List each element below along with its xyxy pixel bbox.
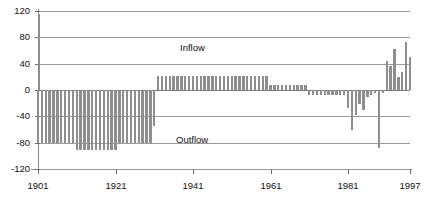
bar bbox=[52, 90, 54, 143]
bar bbox=[382, 90, 384, 93]
bar bbox=[76, 90, 78, 150]
bar bbox=[366, 90, 368, 97]
bar bbox=[227, 76, 229, 90]
bar bbox=[153, 90, 155, 126]
bar bbox=[265, 76, 267, 90]
bar bbox=[161, 76, 163, 90]
bar bbox=[192, 76, 194, 90]
bar bbox=[38, 37, 40, 90]
bar bbox=[393, 49, 395, 90]
bar bbox=[138, 90, 140, 143]
bar bbox=[95, 90, 97, 150]
bar bbox=[250, 76, 252, 90]
bar bbox=[215, 76, 217, 90]
bar bbox=[327, 90, 329, 95]
bar bbox=[126, 90, 128, 143]
outflow-annotation: Outflow bbox=[176, 134, 208, 145]
bar bbox=[64, 90, 66, 143]
plot-area bbox=[38, 11, 410, 169]
bar bbox=[312, 90, 314, 95]
bar bbox=[180, 76, 182, 90]
bar bbox=[56, 90, 58, 143]
bar bbox=[281, 85, 283, 90]
bar bbox=[149, 90, 151, 143]
bar bbox=[165, 76, 167, 90]
bar bbox=[238, 76, 240, 90]
bar bbox=[343, 90, 345, 95]
bar bbox=[45, 90, 47, 143]
bar bbox=[300, 85, 302, 90]
x-tick-label: 1921 bbox=[96, 181, 136, 191]
bar bbox=[351, 90, 353, 130]
bar bbox=[223, 76, 225, 90]
bar bbox=[293, 85, 295, 90]
bar bbox=[118, 90, 120, 143]
x-tick-label: 1941 bbox=[173, 181, 213, 191]
bar bbox=[273, 85, 275, 90]
bar bbox=[184, 76, 186, 90]
y-tick-label: 80 bbox=[0, 32, 30, 41]
bar bbox=[296, 85, 298, 90]
bar bbox=[103, 90, 105, 150]
bar bbox=[169, 76, 171, 90]
bar bbox=[258, 76, 260, 90]
bar bbox=[254, 76, 256, 90]
bar bbox=[262, 76, 264, 90]
bar bbox=[246, 76, 248, 90]
bar bbox=[386, 61, 388, 90]
bar bbox=[83, 90, 85, 150]
bar bbox=[370, 90, 372, 95]
bar bbox=[87, 90, 89, 150]
y-tick-label: 120 bbox=[0, 6, 30, 15]
bar bbox=[405, 42, 407, 90]
bar bbox=[231, 76, 233, 90]
gridline bbox=[38, 169, 410, 170]
bar bbox=[72, 90, 74, 143]
bar bbox=[304, 85, 306, 90]
bar bbox=[37, 90, 39, 143]
bar bbox=[397, 77, 399, 90]
bar bbox=[130, 90, 132, 143]
bar bbox=[196, 76, 198, 90]
bar bbox=[409, 57, 411, 90]
x-tick-label: 1997 bbox=[390, 181, 430, 191]
bar bbox=[234, 76, 236, 90]
y-tick-label: 40 bbox=[0, 59, 30, 68]
x-tick-mark bbox=[271, 169, 272, 174]
y-tick-label: 0 bbox=[0, 85, 30, 94]
bar bbox=[79, 90, 81, 150]
bar bbox=[374, 90, 376, 93]
x-tick-mark bbox=[38, 169, 39, 174]
bar bbox=[172, 76, 174, 90]
y-tick-label: -120 bbox=[0, 164, 30, 173]
inflow-annotation: Inflow bbox=[180, 42, 205, 53]
bar bbox=[91, 90, 93, 150]
bar bbox=[316, 90, 318, 95]
bar bbox=[219, 76, 221, 90]
bar bbox=[269, 85, 271, 90]
bar bbox=[134, 90, 136, 143]
bar bbox=[188, 76, 190, 90]
bar bbox=[145, 90, 147, 143]
chart-page: 12080400-40-80-120 190119211941196119811… bbox=[0, 0, 432, 212]
bar bbox=[207, 76, 209, 90]
bar bbox=[242, 76, 244, 90]
bar bbox=[114, 90, 116, 150]
bar bbox=[347, 90, 349, 108]
bar bbox=[110, 90, 112, 150]
x-tick-mark bbox=[348, 169, 349, 174]
x-tick-mark bbox=[410, 169, 411, 174]
bar bbox=[331, 90, 333, 95]
bar bbox=[60, 90, 62, 143]
bar bbox=[362, 90, 364, 110]
x-tick-label: 1961 bbox=[251, 181, 291, 191]
bar bbox=[176, 76, 178, 90]
bar bbox=[41, 90, 43, 143]
bar bbox=[355, 90, 357, 115]
y-tick-label: -40 bbox=[0, 111, 30, 120]
x-tick-mark bbox=[193, 169, 194, 174]
bar bbox=[320, 90, 322, 95]
bar bbox=[68, 90, 70, 143]
bar bbox=[308, 90, 310, 95]
bar bbox=[99, 90, 101, 150]
